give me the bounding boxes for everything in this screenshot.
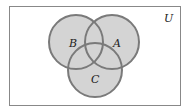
set-a-label: A [112,37,121,50]
set-c-label: C [91,73,100,86]
universe-label: U [164,12,174,25]
set-b-label: B [68,37,77,50]
venn-diagram: B A C U [0,0,190,112]
